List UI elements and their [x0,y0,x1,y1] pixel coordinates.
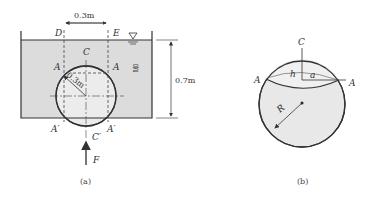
label-water: 물 [132,64,139,73]
label-D: D [54,28,62,38]
label-E: E [112,28,120,38]
label-a: a [310,70,315,80]
label-A-right: A [112,62,120,72]
label-A-left-b: A [253,75,261,85]
caption-b: (b) [297,177,308,186]
label-C-prime: C′ [92,132,101,142]
label-A-left: A [53,62,61,72]
label-A-prime-right: A′ [106,124,116,134]
caption-a: (a) [80,177,91,186]
figure-a: 0.3m 0.3m 0.7m D E C A A 물 A′ A′ C′ F (a… [21,11,196,186]
dimension-depth-label: 0.7m [175,76,196,85]
label-A-prime-left: A′ [50,124,60,134]
water-surface-triangle-icon [128,33,138,44]
figure-b: C A A h a R (b) [253,37,356,186]
diagram-canvas: 0.3m 0.3m 0.7m D E C A A 물 A′ A′ C′ F (a… [0,0,375,199]
label-C-b: C [298,37,305,47]
label-F: F [92,155,100,165]
dimension-DE-label: 0.3m [74,11,95,20]
label-C: C [83,47,90,57]
label-h: h [290,69,296,79]
label-A-right-b: A [348,78,356,88]
